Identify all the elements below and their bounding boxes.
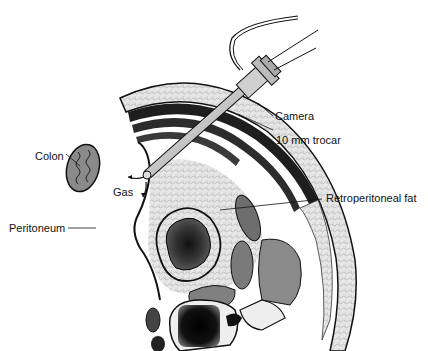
label-colon: Colon [35, 151, 64, 162]
kidney [156, 208, 220, 281]
laparoscopy-illustration [0, 0, 428, 351]
colon [61, 141, 104, 196]
label-gas: Gas [113, 187, 133, 198]
label-trocar: 10 mm trocar [276, 135, 341, 146]
label-peritoneum: Peritoneum [9, 223, 65, 234]
label-camera: Camera [275, 111, 314, 122]
label-retroperitoneal-fat: Retroperitoneal fat [326, 193, 417, 204]
vertebra [146, 300, 285, 351]
